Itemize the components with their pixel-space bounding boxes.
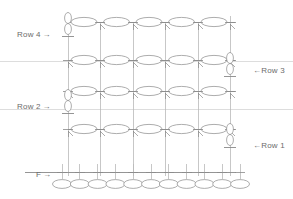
switch-tick — [165, 131, 170, 136]
row-1-label: ←Row 1 — [253, 141, 285, 150]
switch-tick — [198, 24, 203, 29]
switch-tick — [68, 131, 73, 136]
switch-tick — [100, 62, 105, 67]
switch-tick — [133, 131, 138, 136]
bus-ellipse — [169, 17, 195, 26]
bus-ellipse — [104, 124, 130, 133]
bus-ellipse — [104, 55, 130, 64]
foundation-ellipse — [231, 180, 250, 189]
switch-tick — [165, 24, 170, 29]
riser-ellipse — [65, 24, 72, 35]
foundation-ellipse — [213, 180, 232, 189]
riser-ellipse — [65, 101, 72, 112]
riser-ellipse — [65, 13, 72, 24]
riser-ellipse — [227, 64, 234, 75]
bus-ellipse — [71, 124, 97, 133]
bus-ellipse — [104, 86, 130, 95]
bus-ellipse — [71, 55, 97, 64]
foundation-ellipse — [106, 180, 125, 189]
bus-ellipse — [169, 55, 195, 64]
riser-ellipse — [227, 135, 234, 146]
foundation-ellipse — [195, 180, 214, 189]
bus-ellipse — [136, 124, 162, 133]
bus-ellipse — [136, 55, 162, 64]
switch-tick — [230, 24, 235, 29]
switch-tick — [100, 131, 105, 136]
switch-tick — [230, 93, 235, 98]
diagram-canvas: Row 4 →←Row 3Row 2 →←Row 1F → — [0, 0, 293, 199]
switch-tick — [68, 62, 73, 67]
switch-tick — [100, 93, 105, 98]
foundation-ellipse — [159, 180, 178, 189]
switch-tick — [100, 24, 105, 29]
bus-ellipse — [71, 17, 97, 26]
bus-ellipse — [201, 55, 227, 64]
bus-ellipse — [169, 124, 195, 133]
bus-ellipse — [136, 17, 162, 26]
foundation-ellipse — [142, 180, 161, 189]
foundation-ellipse — [124, 180, 143, 189]
row-4-label: Row 4 → — [17, 30, 51, 39]
riser-ellipse — [65, 90, 72, 101]
bus-ellipse — [201, 124, 227, 133]
riser-ellipse — [227, 124, 234, 135]
foundation-ellipse — [70, 180, 89, 189]
switch-tick — [165, 93, 170, 98]
switch-tick — [198, 62, 203, 67]
bus-ellipse — [104, 17, 130, 26]
switch-tick — [133, 24, 138, 29]
foundation-ellipse — [177, 180, 196, 189]
bus-ellipse — [201, 86, 227, 95]
bus-ellipse — [201, 17, 227, 26]
switch-tick — [198, 93, 203, 98]
switch-tick — [133, 62, 138, 67]
riser-ellipse — [227, 53, 234, 64]
bus-ellipse — [136, 86, 162, 95]
row-3-label: ←Row 3 — [253, 66, 285, 75]
bus-ellipse — [169, 86, 195, 95]
bus-ellipse — [71, 86, 97, 95]
foundation-ellipse — [88, 180, 107, 189]
row-2-label: Row 2 → — [17, 102, 51, 111]
foundation-ellipse — [53, 180, 72, 189]
switch-tick — [133, 93, 138, 98]
switch-tick — [198, 131, 203, 136]
f-label: F → — [36, 170, 51, 179]
switch-tick — [165, 62, 170, 67]
